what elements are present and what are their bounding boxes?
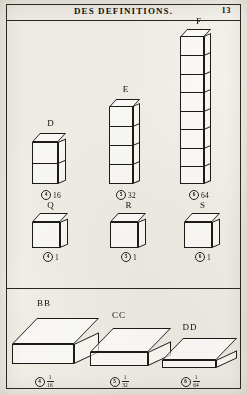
right-face — [138, 218, 146, 248]
reference-numeral: 5 — [116, 190, 126, 200]
figure-label-D: D — [18, 118, 84, 128]
solid-DD — [162, 334, 236, 372]
segment-divider — [205, 71, 210, 74]
fraction-value: 1 32 — [122, 375, 129, 388]
figure-value-R: 5 1 — [98, 252, 160, 262]
figure-value-D: 4 16 — [18, 190, 84, 200]
segment-divider — [181, 129, 203, 130]
reference-numeral: 6 — [189, 190, 199, 200]
figure-value-S: 6 1 — [172, 252, 234, 262]
segment-divider — [205, 163, 210, 166]
segment-divider — [134, 142, 139, 145]
figure-D: D 4 16 — [18, 118, 84, 200]
figure-label-S: S — [172, 200, 234, 210]
value-text: 64 — [201, 191, 209, 200]
right-face — [133, 103, 140, 184]
segment-divider — [33, 163, 57, 164]
solid-CC — [90, 324, 170, 370]
figure-label-E: E — [95, 84, 157, 94]
figure-F: F 6 64 — [168, 16, 230, 200]
front-face — [12, 344, 74, 364]
right-face — [204, 33, 211, 184]
figure-S: S 6 1 — [172, 200, 234, 262]
value-text: 16 — [53, 191, 61, 200]
fraction-value: 1 16 — [47, 375, 54, 388]
value-text: 1 — [133, 253, 137, 262]
figure-value-DD: 6 1 64 — [164, 375, 216, 388]
reference-numeral: 5 — [121, 252, 131, 262]
segment-divider — [205, 108, 210, 111]
segment-divider — [205, 145, 210, 148]
segment-divider — [110, 145, 132, 146]
reference-numeral: 6 — [195, 252, 205, 262]
front-face — [32, 142, 58, 184]
front-face — [110, 222, 138, 248]
segment-divider — [205, 126, 210, 129]
figure-value-BB: 4 1 16 — [16, 375, 72, 388]
segment-divider — [181, 55, 203, 56]
figure-E: E 5 32 — [95, 84, 157, 200]
front-face — [90, 352, 148, 366]
segment-divider — [205, 52, 210, 55]
fraction-denominator: 16 — [47, 382, 52, 388]
solid-R — [110, 214, 154, 248]
figure-Q: Q 4 1 — [20, 200, 82, 262]
figure-label-BB: BB — [16, 298, 72, 308]
solid-Q — [32, 214, 76, 248]
folio-number: 13 — [222, 5, 232, 15]
front-face — [162, 360, 216, 368]
segment-divider — [110, 164, 132, 165]
segment-divider — [181, 111, 203, 112]
figure-value-E: 5 32 — [95, 190, 157, 200]
value-text: 1 — [207, 253, 211, 262]
segment-divider — [181, 92, 203, 93]
segment-divider — [110, 126, 132, 127]
right-face — [212, 218, 220, 248]
segment-divider — [59, 160, 65, 164]
segment-divider — [205, 89, 210, 92]
solid-F — [180, 30, 224, 184]
figure-value-F: 6 64 — [168, 190, 230, 200]
figure-label-F: F — [168, 16, 230, 26]
solid-BB — [12, 314, 100, 368]
value-text: 32 — [128, 191, 136, 200]
figure-label-Q: Q — [20, 200, 82, 210]
value-text: 1 — [55, 253, 59, 262]
solid-S — [184, 214, 228, 248]
figure-R: R 5 1 — [98, 200, 160, 262]
solid-E — [109, 100, 151, 184]
figure-value-CC: 5 1 32 — [92, 375, 146, 388]
reference-numeral: 5 — [110, 377, 120, 387]
front-face — [32, 222, 60, 248]
front-face — [184, 222, 212, 248]
figure-DD: DD 6 1 64 — [160, 322, 238, 388]
segment-divider — [134, 161, 139, 164]
figure-value-Q: 4 1 — [20, 252, 82, 262]
front-face — [109, 106, 133, 184]
right-face — [58, 138, 66, 184]
fraction-denominator: 64 — [193, 382, 198, 388]
figure-label-R: R — [98, 200, 160, 210]
segment-divider — [181, 148, 203, 149]
reference-numeral: 4 — [35, 377, 45, 387]
section-rule — [6, 288, 241, 289]
reference-numeral: 6 — [181, 377, 191, 387]
reference-numeral: 4 — [41, 190, 51, 200]
segment-divider — [181, 166, 203, 167]
page-title: DES DEFINITIONS. — [6, 6, 241, 16]
front-face — [180, 36, 204, 184]
reference-numeral: 4 — [43, 252, 53, 262]
figure-label-CC: CC — [92, 310, 146, 320]
right-face — [60, 218, 68, 248]
segment-divider — [181, 74, 203, 75]
segment-divider — [134, 123, 139, 126]
figure-label-DD: DD — [164, 322, 216, 332]
solid-D — [32, 134, 76, 184]
fraction-value: 1 64 — [193, 375, 200, 388]
fraction-denominator: 32 — [122, 382, 127, 388]
